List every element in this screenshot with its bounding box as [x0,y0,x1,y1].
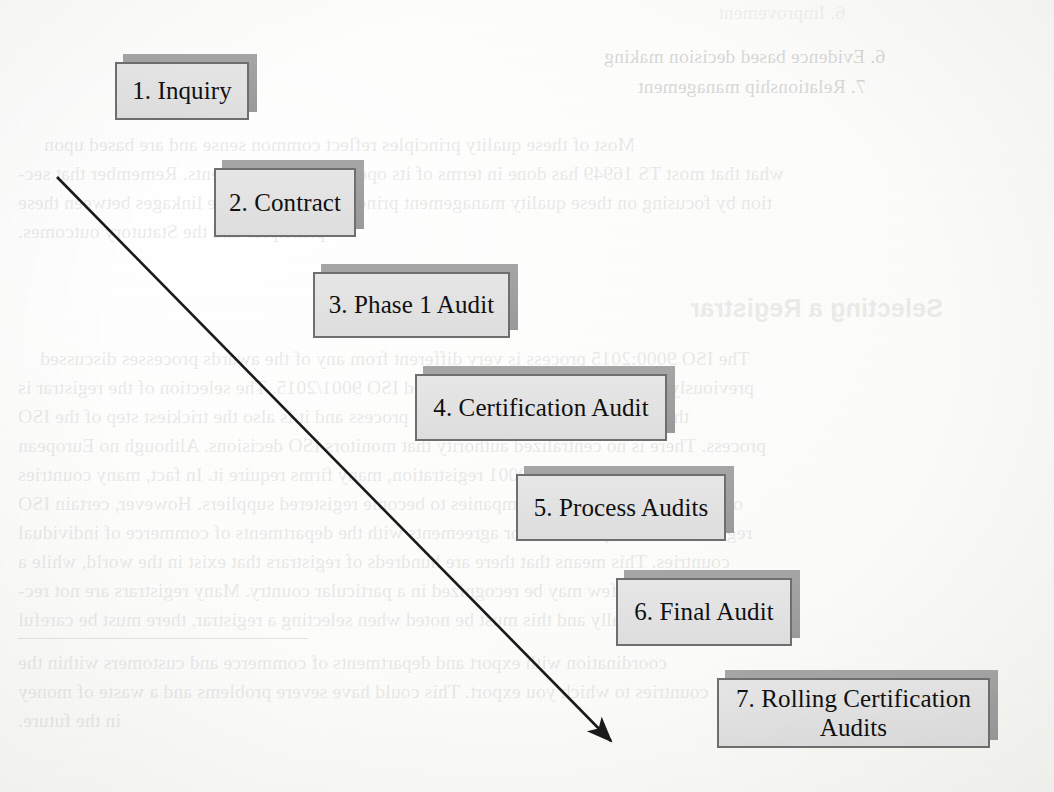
scanned-page: 6. Improvement 6. Evidence based decisio… [0,0,1054,792]
process-step-5[interactable]: 5. Process Audits [516,474,726,541]
process-step-1[interactable]: 1. Inquiry [115,62,249,120]
flow-arrow [57,177,611,741]
process-step-5-label: 5. Process Audits [524,493,719,523]
step-box[interactable]: 2. Contract [214,168,356,237]
process-step-3[interactable]: 3. Phase 1 Audit [313,272,510,338]
step-box[interactable]: 1. Inquiry [115,62,249,120]
process-flow-diagram: 1. Inquiry 2. Contract 3. Phase 1 Audit … [0,0,1054,792]
step-box[interactable]: 7. Rolling Certification Audits [717,678,990,748]
process-step-6-label: 6. Final Audit [624,597,784,627]
process-step-3-label: 3. Phase 1 Audit [319,290,505,320]
process-step-6[interactable]: 6. Final Audit [616,578,792,646]
process-step-4[interactable]: 4. Certification Audit [415,374,667,441]
process-step-2[interactable]: 2. Contract [214,168,356,237]
process-step-7-label: 7. Rolling Certification Audits [726,684,981,743]
process-step-2-label: 2. Contract [219,188,351,218]
process-step-4-label: 4. Certification Audit [423,393,658,423]
step-box[interactable]: 3. Phase 1 Audit [313,272,510,338]
step-box[interactable]: 6. Final Audit [616,578,792,646]
step-box[interactable]: 5. Process Audits [516,474,726,541]
process-step-1-label: 1. Inquiry [122,76,242,106]
process-step-7[interactable]: 7. Rolling Certification Audits [717,678,990,748]
step-box[interactable]: 4. Certification Audit [415,374,667,441]
